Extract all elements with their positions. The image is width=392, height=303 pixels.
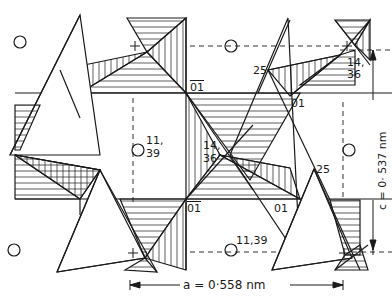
label-01bar-bottom: 01	[187, 203, 201, 214]
atom-circle	[343, 144, 355, 156]
label-11-center: 11,	[146, 135, 164, 146]
label-14-center: 14,	[203, 140, 221, 151]
atom-circle	[132, 144, 144, 156]
a-dimension-label: a = 0·558 nm	[183, 280, 266, 291]
c-dimension-label: c = 0· 537 nm	[377, 132, 388, 210]
label-01bar-top: 01	[190, 82, 204, 93]
label-36-center: 36	[203, 153, 217, 164]
atom-circle	[8, 244, 20, 256]
label-11-39-bottom: 11,39	[236, 235, 268, 246]
label-14-top-right: 14,	[347, 57, 365, 68]
label-25-mid-right: 25	[316, 164, 330, 175]
label-36-top-right: 36	[347, 69, 361, 80]
label-01-top-right: 01	[291, 98, 305, 109]
label-25-top: 25	[253, 65, 267, 76]
atom-circle	[14, 36, 26, 48]
label-39-center: 39	[146, 148, 160, 159]
crystal-structure-diagram	[0, 0, 392, 303]
label-01-bottom: 01	[274, 203, 288, 214]
